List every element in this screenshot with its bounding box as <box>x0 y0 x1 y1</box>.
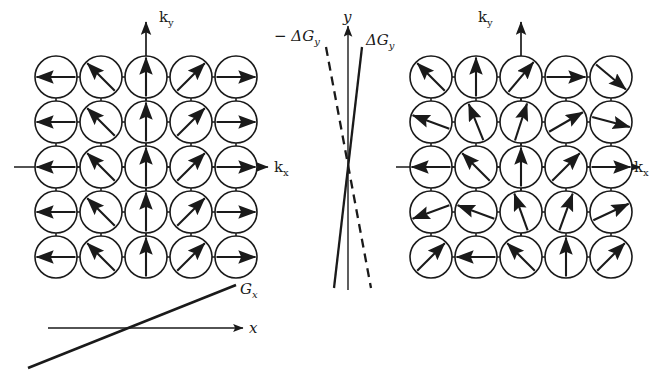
lattice-site <box>590 146 632 188</box>
delta-gy-negative-label: − ΔGy <box>274 27 320 47</box>
lattice-site <box>455 56 497 98</box>
lattice-site <box>215 56 257 98</box>
lattice-site <box>215 146 257 188</box>
lattice-site <box>125 236 167 278</box>
lattice-site <box>455 146 497 188</box>
lattice-site <box>35 146 77 188</box>
lattice-site <box>215 101 257 143</box>
lattice-site <box>590 191 632 233</box>
lattice-site <box>125 146 167 188</box>
lattice-site <box>500 101 542 143</box>
right-lattice-panel: ky kx <box>396 8 649 278</box>
center-y-label: y <box>342 8 352 26</box>
lattice-site <box>545 146 587 188</box>
physics-figure: ky kx ky kx y ΔGy − ΔGy x Gx <box>0 0 660 370</box>
lattice-site <box>125 56 167 98</box>
lattice-site <box>80 236 122 278</box>
lattice-site <box>125 101 167 143</box>
delta-gy-positive-label: ΔGy <box>365 31 395 51</box>
lattice-site <box>80 101 122 143</box>
lattice-site <box>590 236 632 278</box>
lattice-site <box>410 191 452 233</box>
lattice-site <box>500 191 542 233</box>
right-ky-label: ky <box>478 8 493 28</box>
bottom-x-label: x <box>249 319 258 337</box>
lattice-site <box>410 146 452 188</box>
lattice-site <box>170 191 212 233</box>
lattice-site <box>590 101 632 143</box>
lattice-site <box>125 191 167 233</box>
lattice-site <box>80 56 122 98</box>
lattice-site <box>590 56 632 98</box>
lattice-site <box>35 236 77 278</box>
lattice-site <box>455 236 497 278</box>
left-kx-label: kx <box>274 158 289 178</box>
lattice-site <box>545 191 587 233</box>
lattice-site <box>170 236 212 278</box>
lattice-site <box>545 101 587 143</box>
lattice-site <box>35 101 77 143</box>
lattice-site <box>455 101 497 143</box>
lattice-site <box>80 191 122 233</box>
lattice-site <box>500 236 542 278</box>
lattice-site <box>500 146 542 188</box>
lattice-site <box>215 236 257 278</box>
right-lattice-cells <box>410 56 632 278</box>
gx-label: Gx <box>240 280 258 300</box>
lattice-site <box>35 191 77 233</box>
lattice-site <box>500 56 542 98</box>
lattice-site <box>35 56 77 98</box>
left-lattice-panel: ky kx <box>14 8 289 278</box>
lattice-site <box>170 101 212 143</box>
lattice-site <box>170 56 212 98</box>
left-lattice-cells <box>35 56 257 278</box>
lattice-site <box>170 146 212 188</box>
lattice-site <box>545 56 587 98</box>
right-kx-label: kx <box>634 158 649 178</box>
lattice-site <box>455 191 497 233</box>
figure-canvas: ky kx ky kx y ΔGy − ΔGy x Gx <box>0 0 660 370</box>
lattice-site <box>215 191 257 233</box>
lattice-site <box>410 236 452 278</box>
lattice-site <box>80 146 122 188</box>
gy-gradient-panel: y ΔGy − ΔGy <box>274 8 395 290</box>
lattice-site <box>545 236 587 278</box>
gx-gradient-panel: x Gx <box>28 280 258 368</box>
lattice-site <box>410 101 452 143</box>
lattice-site <box>410 56 452 98</box>
gx-line <box>28 285 236 368</box>
left-ky-label: ky <box>159 8 174 28</box>
